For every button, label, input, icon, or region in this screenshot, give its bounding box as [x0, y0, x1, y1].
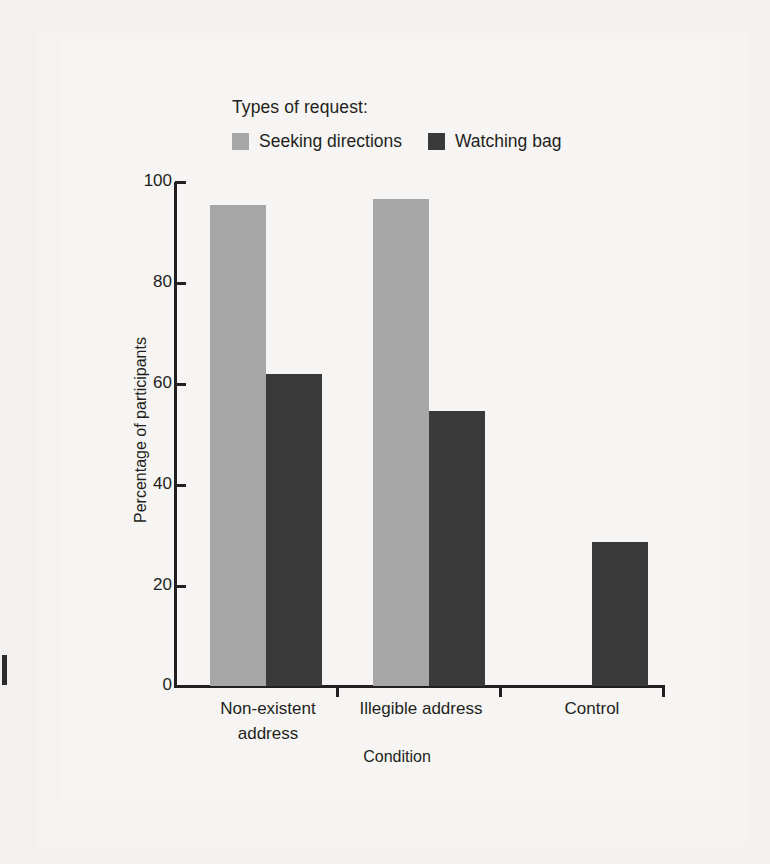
bar-non-existent-address-seeking-directions	[210, 205, 266, 686]
x-tick-label-non-existent-address: Non-existent address	[180, 696, 356, 746]
bar-control-watching-bag	[592, 542, 648, 686]
x-tick-label-control: Control	[522, 696, 662, 721]
plot-area: 0 20 40 60 80 100 Non-existent address	[0, 0, 770, 864]
y-tick-label-100: 100	[126, 171, 172, 191]
x-tick-label-line-1: Non-existent	[180, 696, 356, 721]
bar-non-existent-address-watching-bag	[266, 374, 322, 686]
y-tick-label-0: 0	[126, 675, 172, 695]
x-tick-label-line-1: Control	[522, 696, 662, 721]
x-axis-title: Condition	[172, 748, 622, 766]
x-tick-label-illegible-address: Illegible address	[343, 696, 499, 721]
bar-illegible-address-watching-bag	[429, 411, 485, 686]
x-tick-label-line-1: Illegible address	[343, 696, 499, 721]
x-tick-label-line-2: address	[180, 721, 356, 746]
bar-illegible-address-seeking-directions	[373, 199, 429, 686]
y-axis-title: Percentage of participants	[132, 280, 150, 580]
chart-figure: Types of request: Seeking directions Wat…	[0, 0, 770, 864]
